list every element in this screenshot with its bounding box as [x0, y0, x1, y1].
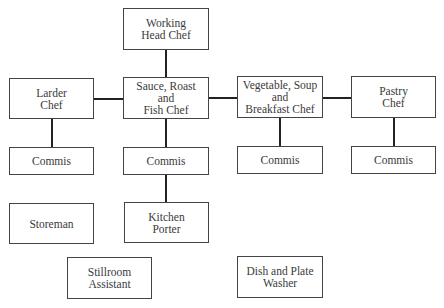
node-commis-larder: Commis: [9, 147, 94, 175]
node-larder-chef: Larder Chef: [9, 78, 94, 119]
connector-larder-to-commis: [51, 119, 53, 147]
node-vegetable-soup-breakfast-chef: Vegetable, Soup and Breakfast Chef: [237, 76, 323, 118]
connector-larder-to-sauce: [94, 98, 123, 100]
connector-veg-to-commis: [279, 118, 281, 147]
node-commis-vegetable: Commis: [237, 146, 323, 174]
connector-sauce-to-commis: [165, 119, 167, 147]
connector-pastry-to-commis: [393, 118, 395, 147]
connector-sauce-to-veg: [209, 97, 237, 99]
node-sauce-roast-fish-chef: Sauce, Roast and Fish Chef: [123, 77, 209, 119]
node-working-head-chef: Working Head Chef: [123, 8, 209, 50]
node-dish-plate-washer: Dish and Plate Washer: [237, 256, 323, 298]
node-pastry-chef: Pastry Chef: [351, 76, 436, 118]
connector-veg-to-pastry: [323, 97, 351, 99]
connector-head-to-sauce: [165, 50, 167, 77]
node-kitchen-porter: Kitchen Porter: [124, 202, 209, 243]
node-stillroom-assistant: Stillroom Assistant: [67, 257, 152, 299]
connector-commis-to-porter: [165, 175, 167, 202]
node-commis-sauce: Commis: [123, 147, 209, 175]
node-storeman: Storeman: [9, 203, 94, 244]
node-commis-pastry: Commis: [351, 146, 436, 174]
